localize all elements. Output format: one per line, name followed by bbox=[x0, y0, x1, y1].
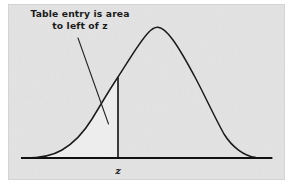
annotation-line-2: to left of z bbox=[52, 20, 108, 31]
normal-distribution-diagram: Table entry is area to left of z z bbox=[0, 0, 299, 191]
z-axis-label: z bbox=[114, 165, 121, 176]
figure-root: Table entry is area to left of z z bbox=[0, 0, 299, 191]
annotation-line-1: Table entry is area bbox=[30, 8, 129, 19]
